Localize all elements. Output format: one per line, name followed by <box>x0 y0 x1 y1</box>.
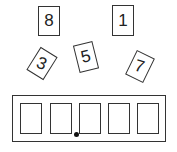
answer-slot-3[interactable] <box>79 103 101 134</box>
answer-slot-4[interactable] <box>108 103 130 134</box>
card-label: 8 <box>44 11 53 31</box>
card-label: 7 <box>133 56 148 78</box>
card-label: 3 <box>34 52 50 74</box>
number-card-1[interactable]: 1 <box>112 5 134 36</box>
number-card-7[interactable]: 7 <box>125 50 155 83</box>
answer-slot-1[interactable] <box>20 103 42 134</box>
decimal-point-marker <box>74 132 79 137</box>
card-label: 1 <box>118 11 127 31</box>
number-card-8[interactable]: 8 <box>38 6 60 36</box>
number-card-3[interactable]: 3 <box>26 47 57 80</box>
answer-tray <box>12 95 166 142</box>
answer-slot-5[interactable] <box>137 103 159 134</box>
card-label: 5 <box>79 46 93 68</box>
number-card-5[interactable]: 5 <box>73 41 99 73</box>
answer-slot-2[interactable] <box>50 103 72 134</box>
